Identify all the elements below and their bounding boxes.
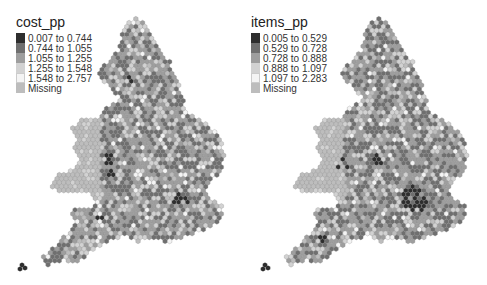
- cost-pp-legend: cost_pp 0.007 to 0.744 0.744 to 1.055 1.…: [16, 14, 92, 93]
- cost-pp-map-panel: cost_pp 0.007 to 0.744 0.744 to 1.055 1.…: [0, 0, 243, 285]
- legend-title: items_pp: [251, 14, 327, 30]
- legend-swatch: [16, 53, 25, 63]
- legend-entry: 0.744 to 1.055: [16, 43, 92, 53]
- legend-entry: 0.005 to 0.529: [251, 33, 327, 43]
- legend-entry: 0.529 to 0.728: [251, 43, 327, 53]
- legend-swatch: [16, 43, 25, 53]
- legend-swatch: [251, 63, 260, 73]
- legend-swatch: [251, 83, 260, 93]
- legend-entry: 0.007 to 0.744: [16, 33, 92, 43]
- legend-entry: 0.728 to 0.888: [251, 53, 327, 63]
- legend-swatch: [16, 73, 25, 83]
- legend-swatch: [251, 53, 260, 63]
- legend-entry: 0.888 to 1.097: [251, 63, 327, 73]
- items-pp-legend: items_pp 0.005 to 0.529 0.529 to 0.728 0…: [251, 14, 327, 93]
- legend-swatch: [251, 33, 260, 43]
- items-pp-map-panel: items_pp 0.005 to 0.529 0.529 to 0.728 0…: [243, 0, 486, 285]
- legend-swatch: [16, 63, 25, 73]
- legend-swatch: [251, 73, 260, 83]
- legend-entry: 1.055 to 1.255: [16, 53, 92, 63]
- legend-swatch: [16, 33, 25, 43]
- legend-entry: 1.255 to 1.548: [16, 63, 92, 73]
- legend-swatch: [251, 43, 260, 53]
- legend-entry: 1.548 to 2.757: [16, 73, 92, 83]
- legend-entry: Missing: [16, 83, 92, 93]
- legend-entry: 1.097 to 2.283: [251, 73, 327, 83]
- legend-title: cost_pp: [16, 14, 92, 30]
- legend-entry: Missing: [251, 83, 327, 93]
- legend-swatch: [16, 83, 25, 93]
